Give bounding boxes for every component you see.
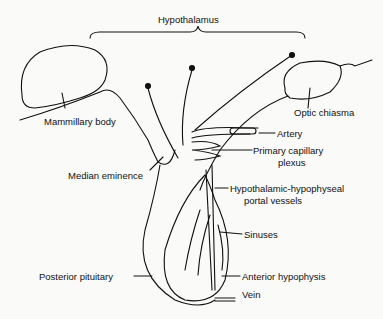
sinuses-label: Sinuses xyxy=(244,229,278,240)
portal-vessels-label-1: Hypothalamic-hypophyseal xyxy=(230,183,344,194)
anterior-hypophysis-label: Anterior hypophysis xyxy=(242,271,325,282)
optic-chiasma-label: Optic chiasma xyxy=(294,107,354,118)
optic-chiasma xyxy=(284,61,341,99)
hypothalamus-brace xyxy=(90,26,305,38)
median-eminence-label: Median eminence xyxy=(68,170,143,181)
anterior-hypophysis xyxy=(164,175,228,301)
portal-vessels-label-2: portal vessels xyxy=(244,195,302,206)
vein-label: Vein xyxy=(242,289,261,300)
plexus-label: plexus xyxy=(278,157,305,168)
mammillary-body-label: Mammillary body xyxy=(44,116,116,127)
hypothalamus-label: Hypothalamus xyxy=(158,14,219,25)
primary-capillary-label: Primary capillary xyxy=(253,145,323,156)
artery-label: Artery xyxy=(277,128,302,139)
mammillary-body xyxy=(21,45,107,108)
posterior-pituitary-label: Posterior pituitary xyxy=(39,271,113,282)
